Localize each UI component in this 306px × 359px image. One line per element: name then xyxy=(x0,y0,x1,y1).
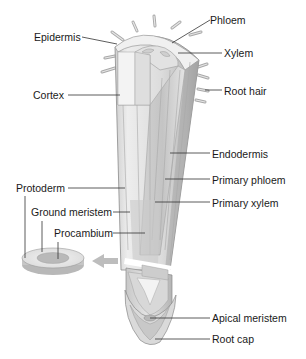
label-primary-xylem: Primary xylem xyxy=(212,197,279,209)
label-protoderm: Protoderm xyxy=(16,182,65,194)
label-root-cap: Root cap xyxy=(212,333,254,345)
cross-section-disc xyxy=(22,248,84,275)
label-root-hair: Root hair xyxy=(224,85,267,97)
label-phloem: Phloem xyxy=(210,14,246,26)
label-endodermis: Endodermis xyxy=(212,148,268,160)
root-tip-diagram: Phloem Xylem Epidermis Cortex Root hair … xyxy=(0,0,306,359)
label-primary-phloem: Primary phloem xyxy=(212,174,286,186)
label-cortex: Cortex xyxy=(33,89,64,101)
label-epidermis: Epidermis xyxy=(34,31,81,43)
arrow-left-icon xyxy=(92,254,118,268)
label-procambium: Procambium xyxy=(54,227,113,239)
label-ground-meristem: Ground meristem xyxy=(31,206,112,218)
label-xylem: Xylem xyxy=(224,47,253,59)
label-apical-meristem: Apical meristem xyxy=(212,312,287,324)
